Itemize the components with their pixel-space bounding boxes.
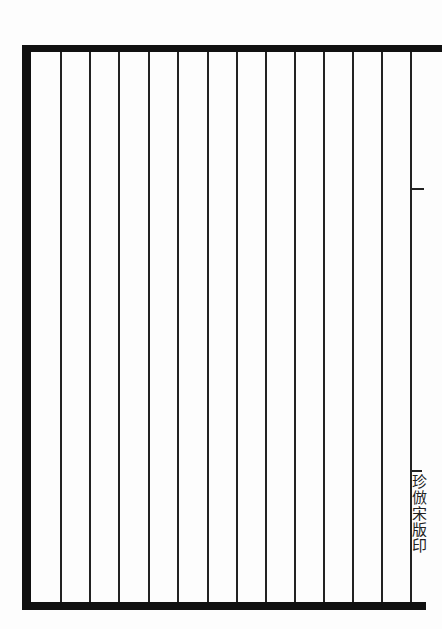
fold-center-mark (412, 188, 424, 190)
column-rule (177, 52, 179, 602)
column-rule (352, 52, 354, 602)
column-rule (60, 52, 62, 602)
column-rule (236, 52, 238, 602)
column-rule (265, 52, 267, 602)
book-page: 珍倣宋版印 (0, 0, 442, 629)
frame-border-top (22, 45, 442, 52)
frame-border-bottom (22, 602, 426, 610)
column-rule (89, 52, 91, 602)
column-rule (381, 52, 383, 602)
column-rule (294, 52, 296, 602)
imprint-bracket (410, 470, 422, 472)
column-rule (118, 52, 120, 602)
frame-border-left (22, 45, 31, 610)
column-rule (323, 52, 325, 602)
column-rule (148, 52, 150, 602)
column-rule (207, 52, 209, 602)
publisher-imprint: 珍倣宋版印 (412, 474, 430, 554)
